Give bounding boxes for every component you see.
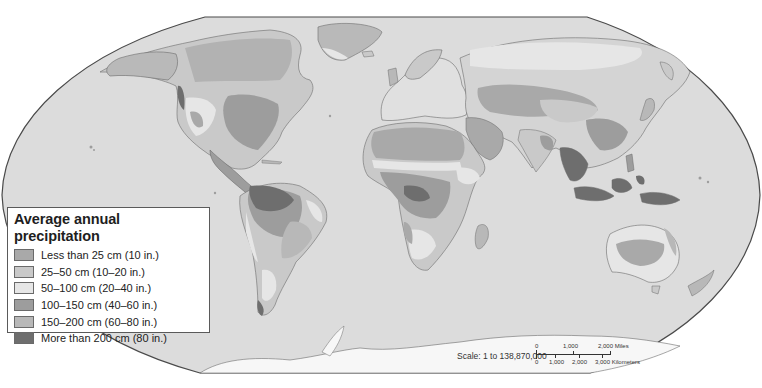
legend-label: Less than 25 cm (10 in.) xyxy=(41,249,159,261)
legend-swatch xyxy=(14,332,34,344)
scale-label: Scale: 1 to 138,870,000 xyxy=(457,351,547,361)
scale-km-1000: 1,000 xyxy=(549,359,564,365)
scale-bar: 0 1,000 2,000 Miles 0 1,000 2,000 3,000 … xyxy=(536,343,646,373)
scale-km-0: 0 xyxy=(535,359,538,365)
legend-label: 100–150 cm (40–60 in.) xyxy=(41,299,157,311)
scale-line xyxy=(536,354,611,355)
legend-item: More than 200 cm (80 in.) xyxy=(14,330,204,347)
scale-km-2000: 2,000 xyxy=(572,359,587,365)
legend-swatch xyxy=(14,282,34,294)
legend-label: 50–100 cm (20–40 in.) xyxy=(41,282,151,294)
legend-item: 100–150 cm (40–60 in.) xyxy=(14,297,204,314)
legend-label: 25–50 cm (10–20 in.) xyxy=(41,266,145,278)
legend-swatch xyxy=(14,249,34,261)
scale-km-3000: 3,000 Kilometers xyxy=(595,359,640,365)
legend-swatch xyxy=(14,316,34,328)
scale-miles-1000: 1,000 xyxy=(563,343,578,349)
legend-item: 25–50 cm (10–20 in.) xyxy=(14,264,204,281)
legend-swatch xyxy=(14,266,34,278)
legend-item: 150–200 cm (60–80 in.) xyxy=(14,313,204,330)
map-legend: Average annual precipitation Less than 2… xyxy=(7,207,210,333)
legend-swatch xyxy=(14,299,34,311)
scale-miles-0: 0 xyxy=(535,343,538,349)
legend-label: More than 200 cm (80 in.) xyxy=(41,332,167,344)
legend-item: 50–100 cm (20–40 in.) xyxy=(14,280,204,297)
legend-item: Less than 25 cm (10 in.) xyxy=(14,247,204,264)
legend-title: Average annual precipitation xyxy=(14,211,204,245)
scale-miles-2000: 2,000 Miles xyxy=(598,343,629,349)
legend-label: 150–200 cm (60–80 in.) xyxy=(41,316,157,328)
